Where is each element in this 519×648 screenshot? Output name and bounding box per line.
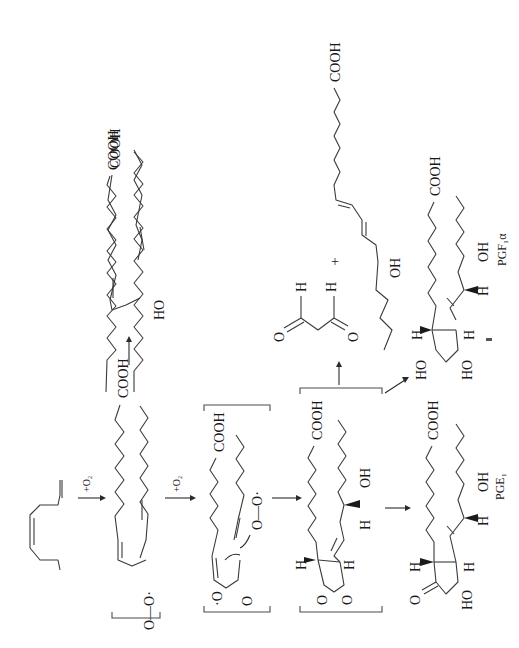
pge1-h2: H: [462, 562, 477, 572]
reagent-o2-2: +O₂: [171, 476, 182, 492]
hydroxy-triene-molecule: COOH OH: [328, 42, 403, 350]
mda-o2: O: [346, 332, 361, 342]
plus-sign: +: [331, 254, 339, 269]
pgf1a-h2: H: [462, 330, 477, 340]
endoperoxide-h3: H: [358, 520, 373, 530]
malondialdehyde-molecule: H H O O: [272, 282, 361, 342]
pge1-ketone-o: O: [408, 595, 423, 605]
substrate-molecule: COOH: [30, 130, 143, 570]
endoperoxide-molecule: COOH H H O O H OH: [294, 388, 382, 612]
endoperoxide-h2: H: [342, 560, 357, 570]
pgf1a-molecule: COOH H H HO HO H OH PGF₁α: [410, 156, 509, 380]
pgf1a-oh-label: OH: [476, 242, 491, 262]
endoperoxide-o1: O: [315, 595, 330, 605]
endoperoxide-radical-o1: ·O: [210, 591, 225, 606]
pgf1a-ho1: HO: [414, 360, 429, 380]
endoperoxide-oh-label: OH: [358, 468, 373, 488]
mda-o1: O: [272, 332, 287, 342]
endoperoxide-radical-cooh-label: COOH: [212, 412, 227, 452]
pgf1a-h3: H: [476, 286, 491, 296]
endoperoxide-radical-o2: O: [240, 596, 255, 606]
hydroxy-acid-cooh-label: COOH: [108, 128, 123, 168]
pgf1a-name-label: PGF₁α: [495, 233, 509, 266]
pgf1a-h1: H: [410, 330, 425, 340]
hydroperoxyl-molecule: COOH O—O·: [112, 358, 160, 630]
pge1-ho: HO: [460, 590, 475, 610]
pge1-cooh-label: COOH: [426, 400, 441, 440]
hydroxy-triene-cooh-label: COOH: [328, 42, 343, 82]
pgf1a-cooh-label: COOH: [428, 156, 443, 196]
pge1-h1: H: [408, 562, 423, 572]
page-mark: [486, 338, 492, 341]
endoperoxide-o2: O: [340, 595, 355, 605]
endoperoxide-h1: H: [294, 560, 309, 570]
pge1-oh-label: OH: [476, 472, 491, 492]
reaction-scheme-svg: COOH COOH O—O· COOH HO +O₂: [0, 0, 519, 648]
endoperoxide-cooh-label: COOH: [310, 400, 325, 440]
reagent-o2-1: +O₂: [81, 476, 92, 492]
pge1-h3: H: [476, 516, 491, 526]
hydroperoxyl-o1: O—O·: [142, 591, 157, 630]
hydroxy-acid-ho-label: HO: [152, 300, 167, 320]
reaction-scheme: COOH COOH O—O· COOH HO +O₂: [0, 0, 519, 648]
pge1-name-label: PGE₁: [493, 473, 507, 500]
hydroxy-triene-oh-label: OH: [388, 258, 403, 278]
hydroxy-acid-molecule: COOH HO: [108, 128, 167, 320]
mda-h2: H: [324, 282, 339, 292]
mda-h1: H: [294, 282, 309, 292]
pgf1a-ho2: HO: [460, 360, 475, 380]
endoperoxide-radical-molecule: COOH ·O O O—O·: [204, 405, 270, 612]
endoperoxide-radical-peroxy: O—O·: [250, 491, 265, 530]
pge1-molecule: COOH H H O HO H OH PGE₁: [408, 400, 507, 610]
